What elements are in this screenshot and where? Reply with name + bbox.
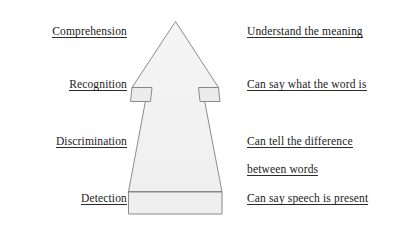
arrow-left-notch xyxy=(131,88,153,102)
diagram-canvas: Comprehension Recognition Discrimination… xyxy=(0,0,397,227)
stage-label-recognition: Recognition xyxy=(0,63,127,91)
arrow-head-and-shaft xyxy=(129,22,223,192)
stage-label-detection: Detection xyxy=(0,177,127,205)
stage-label-comprehension: Comprehension xyxy=(0,10,127,38)
stage-label-discrimination: Discrimination xyxy=(0,120,127,148)
arrow-base-segment xyxy=(129,192,223,214)
description-detection-text: Can say speech is present xyxy=(247,192,368,205)
arrow-right-notch xyxy=(199,88,221,102)
stage-label-discrimination-text: Discrimination xyxy=(56,135,127,148)
stage-label-comprehension-text: Comprehension xyxy=(52,25,127,38)
description-comprehension: Understand the meaning xyxy=(247,10,395,38)
description-detection: Can say speech is present xyxy=(247,177,397,205)
description-discrimination-line1: Can tell the difference xyxy=(247,135,353,148)
stage-label-detection-text: Detection xyxy=(81,192,127,205)
description-recognition-text: Can say what the word is xyxy=(247,78,367,91)
description-recognition: Can say what the word is xyxy=(247,63,395,91)
description-discrimination-line2: between words xyxy=(247,163,318,176)
description-comprehension-text: Understand the meaning xyxy=(247,25,363,38)
description-discrimination: Can tell the difference between words xyxy=(247,120,392,176)
stage-label-recognition-text: Recognition xyxy=(69,78,127,91)
